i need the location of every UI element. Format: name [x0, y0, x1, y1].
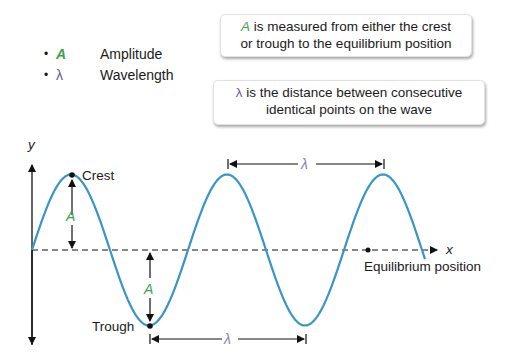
amplitude-symbol: A [143, 281, 153, 297]
wavelength-symbol: λ [300, 156, 308, 172]
trough-label: Trough [92, 319, 134, 334]
wavelength-symbol: λ [223, 331, 231, 347]
y-axis-label: y [27, 137, 36, 152]
crest-point [69, 172, 75, 178]
trough-point [147, 323, 153, 329]
x-axis-label: x [445, 242, 454, 257]
equilibrium-point [366, 248, 371, 253]
amplitude-symbol: A [65, 208, 75, 224]
equilibrium-label: Equilibrium position [364, 259, 481, 274]
wave-diagram: y x Equilibrium position Crest A Trough … [0, 0, 507, 362]
crest-label: Crest [82, 168, 115, 183]
